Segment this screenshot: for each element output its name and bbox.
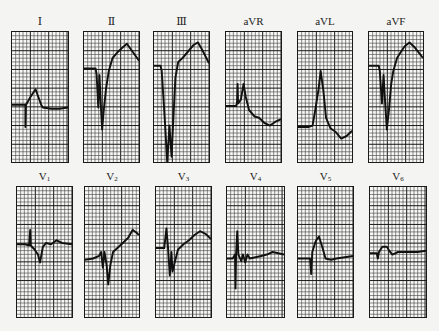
ecg-trace bbox=[85, 230, 139, 285]
ecg-grid-panel bbox=[225, 31, 282, 163]
lead-label: V6 bbox=[369, 170, 427, 185]
lead-label: V4 bbox=[226, 170, 285, 185]
ecg-grid-panel bbox=[84, 186, 140, 318]
ecg-trace bbox=[17, 230, 72, 263]
ecg-trace bbox=[298, 236, 353, 274]
ecg-grid-panel bbox=[297, 186, 354, 318]
ecg-grid-panel bbox=[297, 31, 353, 163]
lead-label: aVR bbox=[225, 15, 282, 27]
ecg-trace bbox=[226, 84, 281, 126]
ecg-trace bbox=[227, 231, 284, 288]
lead-v4: V4 bbox=[226, 170, 285, 318]
lead-v5: V5 bbox=[297, 170, 354, 318]
lead-v1: V1 bbox=[16, 170, 73, 318]
lead-avf: aVF bbox=[368, 15, 424, 163]
lead-label: aVL bbox=[297, 15, 353, 27]
ecg-grid-panel bbox=[368, 31, 424, 163]
ecg-trace bbox=[84, 44, 139, 130]
ecg-grid-panel bbox=[153, 31, 210, 163]
lead-v2: V2 bbox=[84, 170, 140, 318]
lead-label: V2 bbox=[84, 170, 140, 185]
lead-label: V5 bbox=[297, 170, 354, 185]
lead-avl: aVL bbox=[297, 15, 353, 163]
ecg-grid-panel bbox=[226, 186, 285, 318]
ecg-grid-panel bbox=[11, 31, 69, 163]
lead-v3: V3 bbox=[155, 170, 212, 318]
ecg-grid-panel bbox=[369, 186, 427, 318]
lead-label: V1 bbox=[16, 170, 73, 185]
ecg-trace bbox=[369, 42, 423, 129]
lead-ii: Ⅱ bbox=[83, 15, 140, 163]
ecg-grid-panel bbox=[16, 186, 73, 318]
lead-i: Ⅰ bbox=[11, 15, 69, 163]
ecg-trace bbox=[298, 71, 352, 139]
lead-label: aVF bbox=[368, 15, 424, 27]
ecg-grid-panel bbox=[83, 31, 140, 163]
lead-label: Ⅱ bbox=[83, 15, 140, 27]
ecg-grid-panel bbox=[155, 186, 212, 318]
lead-label: Ⅰ bbox=[11, 15, 69, 27]
lead-avr: aVR bbox=[225, 15, 282, 163]
lead-label: Ⅲ bbox=[153, 15, 210, 27]
lead-label: V3 bbox=[155, 170, 212, 185]
lead-iii: Ⅲ bbox=[153, 15, 210, 163]
lead-v6: V6 bbox=[369, 170, 427, 318]
